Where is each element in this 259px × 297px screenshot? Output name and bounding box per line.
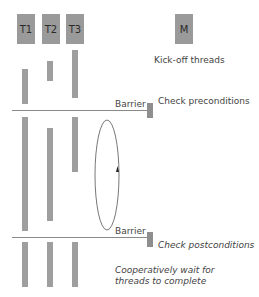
main-check-post-bar bbox=[147, 232, 153, 247]
barrier-2-line bbox=[12, 237, 148, 238]
wait-label-line2: threads to complete bbox=[115, 276, 206, 287]
t3-exec-bar-3 bbox=[72, 242, 78, 287]
postconditions-label: Check postconditions bbox=[158, 240, 254, 251]
barrier-2-label: Barrier bbox=[115, 226, 146, 237]
t2-exec-bar-3 bbox=[47, 242, 53, 287]
loop-cycle-icon bbox=[0, 0, 259, 297]
t1-exec-bar-3 bbox=[22, 242, 28, 287]
wait-label-line1: Cooperatively wait for bbox=[115, 265, 214, 276]
